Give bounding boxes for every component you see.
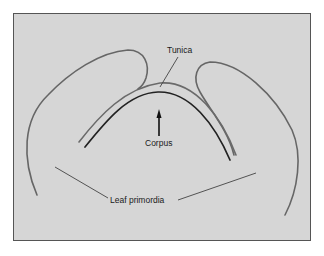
leaf-primordia-leader-left <box>55 167 108 198</box>
leaf-primordia-leader-right <box>178 173 256 200</box>
leaf-primordia-label: Leaf primordia <box>110 195 164 205</box>
tunica-label: Tunica <box>167 45 192 55</box>
corpus-boundary <box>85 92 230 160</box>
right-leaf-primordium <box>196 62 298 215</box>
meristem-diagram <box>0 0 324 256</box>
corpus-arrow-head <box>157 109 162 118</box>
left-leaf-primordium <box>27 50 147 195</box>
corpus-label: Corpus <box>145 138 172 148</box>
